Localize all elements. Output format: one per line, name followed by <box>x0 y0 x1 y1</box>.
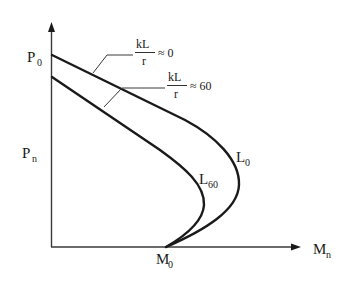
label-sub: 60 <box>208 179 218 190</box>
label-main: P <box>22 145 30 161</box>
approx-relation: ≈ 60 <box>190 79 212 93</box>
label-sub: 0 <box>245 157 250 168</box>
label-L0: L 0 <box>236 149 250 168</box>
fraction-denominator: r <box>174 87 178 101</box>
approx-relation: ≈ 0 <box>158 46 174 60</box>
y-axis-arrow-icon <box>48 22 55 32</box>
label-sub: n <box>326 249 331 260</box>
label-main: P <box>27 49 35 65</box>
label-P0: P 0 <box>27 49 42 68</box>
label-sub: n <box>32 153 37 164</box>
label-L60: L 60 <box>199 171 218 190</box>
label-sub: 0 <box>37 57 42 68</box>
label-Pn: P n <box>22 145 37 164</box>
label-main: M <box>313 241 326 257</box>
label-Mn: M n <box>313 241 331 260</box>
annotation-kl60: kL r ≈ 60 <box>167 70 212 101</box>
fraction-denominator: r <box>142 54 146 68</box>
axes <box>48 22 301 251</box>
label-sub: 0 <box>168 259 173 270</box>
fraction-numerator: kL <box>136 37 149 51</box>
label-main: L <box>236 149 245 165</box>
leader-line-kl0 <box>93 55 133 73</box>
fraction-numerator: kL <box>168 70 181 84</box>
x-axis-arrow-icon <box>291 244 301 251</box>
curve-L60 <box>52 77 204 247</box>
interaction-diagram: kL r ≈ 0 kL r ≈ 60 P 0 P n L 0 L 60 M 0 … <box>0 0 348 281</box>
leader-line-kl60 <box>104 88 165 107</box>
label-main: L <box>199 171 208 187</box>
label-M0: M 0 <box>156 251 173 270</box>
annotation-kl0: kL r ≈ 0 <box>135 37 174 68</box>
